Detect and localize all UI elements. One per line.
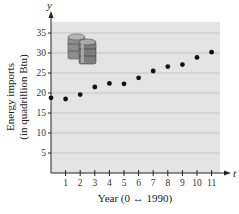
y-tick-label: 35	[37, 28, 47, 38]
x-tick-label: 4	[107, 178, 112, 188]
x-tick-label: 6	[136, 178, 141, 188]
y-axis-title-line1: Energy imports	[4, 63, 16, 131]
data-point	[180, 62, 185, 67]
x-tick-label: 10	[192, 178, 202, 188]
x-tick-label: 11	[207, 178, 216, 188]
data-point	[107, 81, 112, 86]
x-tick-label: 5	[122, 178, 127, 188]
y-axis-title-line2: (in quadrillion Btu)	[17, 54, 30, 140]
y-tick-label: 30	[37, 48, 47, 58]
data-point	[151, 69, 156, 74]
x-tick-label: 3	[92, 178, 97, 188]
y-tick-label: 5	[41, 148, 46, 158]
data-point	[49, 95, 54, 100]
x-tick-label: 2	[78, 178, 83, 188]
data-point	[209, 50, 214, 55]
energy-imports-chart: 5101520253035 1234567891011 y t Year (0 …	[0, 0, 239, 214]
data-point	[136, 75, 141, 80]
y-tick-label: 25	[37, 68, 47, 78]
data-point	[122, 81, 127, 86]
y-axis-arrow	[49, 11, 54, 18]
x-tick-label: 9	[180, 178, 185, 188]
data-point	[78, 92, 83, 97]
y-ticks: 5101520253035	[37, 28, 52, 158]
x-tick-label: 7	[151, 178, 156, 188]
data-point	[165, 64, 170, 69]
x-axis-title: Year (0 ↔ 1990)	[98, 192, 173, 205]
data-point	[92, 85, 97, 90]
x-axis-var-label: t	[233, 167, 237, 179]
x-axis-arrow	[224, 171, 231, 176]
x-tick-label: 1	[63, 178, 68, 188]
y-axis-var-label: y	[46, 0, 52, 11]
data-point	[63, 97, 68, 102]
data-point	[195, 55, 200, 60]
y-tick-label: 15	[37, 108, 47, 118]
x-tick-label: 8	[165, 178, 170, 188]
y-tick-label: 10	[37, 128, 47, 138]
y-tick-label: 20	[37, 88, 47, 98]
